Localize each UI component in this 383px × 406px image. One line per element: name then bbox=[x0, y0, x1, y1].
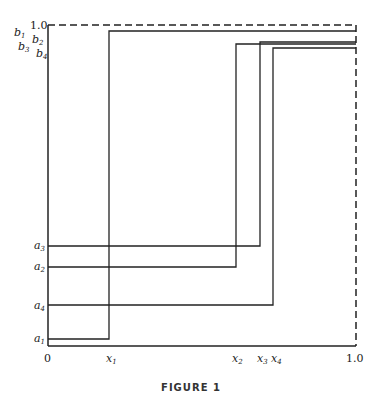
a4-label: a4 bbox=[34, 299, 45, 313]
figure-diagram: 1.0 b1 b2 b3 b4 a3 a2 a4 a1 0 x1 x2 x3 x… bbox=[0, 0, 383, 406]
b4-label: b4 bbox=[36, 47, 48, 61]
y-top-label: 1.0 bbox=[30, 19, 48, 32]
figure-caption: FIGURE 1 bbox=[161, 382, 221, 393]
x4-label: x4 bbox=[271, 352, 282, 366]
a1-label: a1 bbox=[34, 332, 45, 346]
step-path-2 bbox=[48, 44, 356, 267]
x-end-label: 1.0 bbox=[346, 352, 364, 365]
x2-label: x2 bbox=[232, 352, 243, 366]
b1-label: b1 bbox=[14, 26, 26, 40]
a3-label: a3 bbox=[34, 239, 46, 253]
x1-label: x1 bbox=[106, 352, 117, 366]
step-path-1 bbox=[48, 31, 356, 339]
x3-label: x3 bbox=[257, 352, 268, 366]
step-path-3 bbox=[48, 42, 356, 246]
x-origin-label: 0 bbox=[44, 352, 51, 365]
b3-label: b3 bbox=[18, 40, 30, 54]
b2-label: b2 bbox=[32, 33, 44, 47]
a2-label: a2 bbox=[34, 260, 46, 274]
